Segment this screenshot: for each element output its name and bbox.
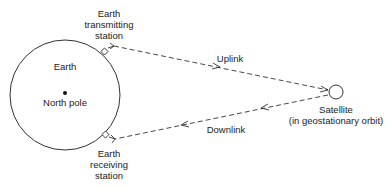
satellite-circle	[329, 85, 343, 99]
rx-line-2: receiving	[90, 159, 128, 170]
north-pole-dot	[63, 91, 67, 95]
north-pole-label: North pole	[43, 97, 87, 108]
transmitting-station-label: Earth transmitting station	[84, 8, 133, 41]
uplink-label: Uplink	[217, 53, 243, 64]
diagram-canvas	[0, 0, 387, 188]
satellite-label: Satellite	[319, 104, 353, 115]
satellite-sublabel: (in geostationary orbit)	[289, 115, 384, 126]
receiving-station-icon	[102, 131, 109, 138]
tx-line-1: Earth	[84, 8, 133, 19]
receive-antenna-icon	[109, 135, 115, 143]
rx-line-1: Earth	[90, 148, 128, 159]
tx-line-2: transmitting	[84, 19, 133, 30]
receiving-station-label: Earth receiving station	[90, 148, 128, 181]
transmit-antenna-icon	[108, 43, 114, 49]
rx-line-3: station	[90, 170, 128, 181]
earth-label: Earth	[54, 61, 77, 72]
downlink-label: Downlink	[207, 124, 246, 135]
downlink-arrow-end-icon	[181, 121, 189, 127]
tx-line-3: station	[84, 30, 133, 41]
downlink-arrow-icon	[261, 104, 269, 110]
